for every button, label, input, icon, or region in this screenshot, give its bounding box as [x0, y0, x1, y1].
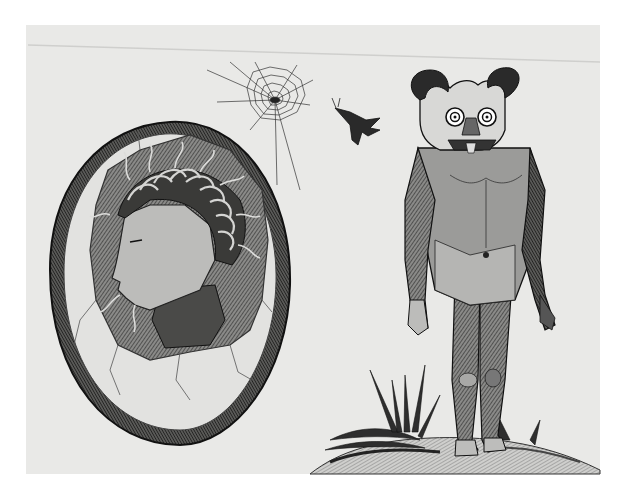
flying-insect	[332, 98, 380, 145]
paper-fold-line	[28, 45, 600, 62]
horned-masked-figure	[405, 68, 555, 456]
grass-tuft	[325, 365, 540, 450]
engraving-artwork	[0, 0, 627, 496]
